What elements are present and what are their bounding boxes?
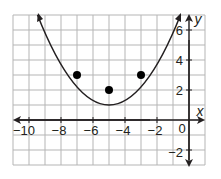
x-tick-label: −10: [13, 123, 35, 138]
x-tick-label: −6: [84, 123, 99, 138]
y-tick-label: −2: [168, 145, 183, 160]
vertex-point: [105, 86, 113, 94]
x-tick-label: −2: [148, 123, 163, 138]
y-tick-label: 4: [176, 53, 183, 68]
x-axis-label: x: [196, 103, 205, 119]
y-axis-label: y: [194, 11, 203, 27]
data-point: [73, 71, 81, 79]
coordinate-plane: −10 −8 −6 −4 −2 0 6 4 2 −2 x y: [0, 0, 221, 179]
x-tick-label: −4: [116, 123, 131, 138]
data-point: [137, 71, 145, 79]
origin-label: 0: [178, 121, 185, 136]
y-tick-label: 2: [176, 83, 183, 98]
x-tick-label: −8: [52, 123, 67, 138]
